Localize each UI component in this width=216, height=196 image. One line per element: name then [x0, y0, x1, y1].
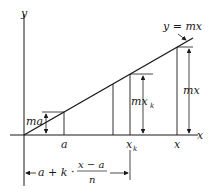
- label-mxk-sub: k: [150, 102, 154, 110]
- label-xk-sub: k: [133, 145, 137, 153]
- label-mxk: mx: [131, 95, 148, 108]
- brace-denominator: n: [89, 174, 95, 185]
- line-y-equals-mx: [24, 38, 193, 135]
- label-mx: mx: [183, 84, 200, 97]
- line-label-pointer: [178, 34, 186, 40]
- label-ma: ma: [26, 115, 43, 128]
- x-axis-label: x: [197, 129, 204, 142]
- diagram-canvas: y x y = mx ma a mx k x k mx x a + k · x …: [0, 0, 216, 196]
- y-axis-label: y: [20, 7, 28, 20]
- label-xk: x: [126, 138, 133, 151]
- line-label: y = mx: [162, 20, 203, 33]
- diagram-svg: y x y = mx ma a mx k x k mx x a + k · x …: [0, 0, 216, 196]
- brace-expr-left: a + k ·: [38, 166, 74, 179]
- brace-numerator: x − a: [78, 159, 104, 170]
- label-a: a: [61, 138, 68, 151]
- label-x: x: [174, 138, 181, 151]
